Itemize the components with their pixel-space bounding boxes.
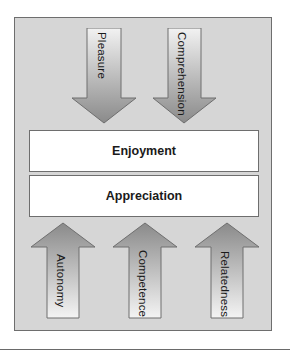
relatedness-arrow: Relatedness xyxy=(194,222,260,319)
pleasure-arrow: Pleasure xyxy=(71,28,137,124)
bottom-divider xyxy=(0,349,290,350)
enjoyment-box: Enjoyment xyxy=(29,130,259,172)
comprehension-arrow: Comprehension xyxy=(152,28,218,124)
arrow-label: Pleasure xyxy=(96,32,108,79)
arrow-label: Autonomy xyxy=(55,254,67,307)
appreciation-box: Appreciation xyxy=(29,175,259,217)
arrow-label: Comprehension xyxy=(176,32,188,116)
arrow-label: Relatedness xyxy=(219,251,231,317)
autonomy-arrow: Autonomy xyxy=(30,222,96,319)
arrow-label: Competence xyxy=(137,250,149,317)
competence-arrow: Competence xyxy=(112,222,178,319)
